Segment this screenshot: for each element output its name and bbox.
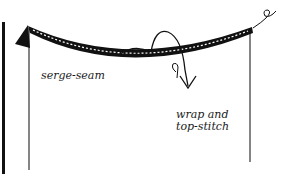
left-fabric-tip: [15, 25, 30, 48]
seam-diagram: serge-seam wrap and top-stitch: [0, 0, 297, 179]
serge-seam-label: serge-seam: [41, 70, 105, 82]
wrap-topstitch-label: wrap and top-stitch: [176, 109, 229, 133]
arrow-head-icon: [180, 76, 196, 88]
wrap-label-line2: top-stitch: [176, 121, 229, 133]
left-border-bar: [2, 22, 5, 174]
wrap-arrow-path: [151, 31, 188, 86]
seam-illustration: [0, 0, 297, 179]
thread-end-curl: [253, 10, 276, 28]
fabric-band: [28, 26, 253, 58]
thread-curl: [172, 63, 178, 78]
